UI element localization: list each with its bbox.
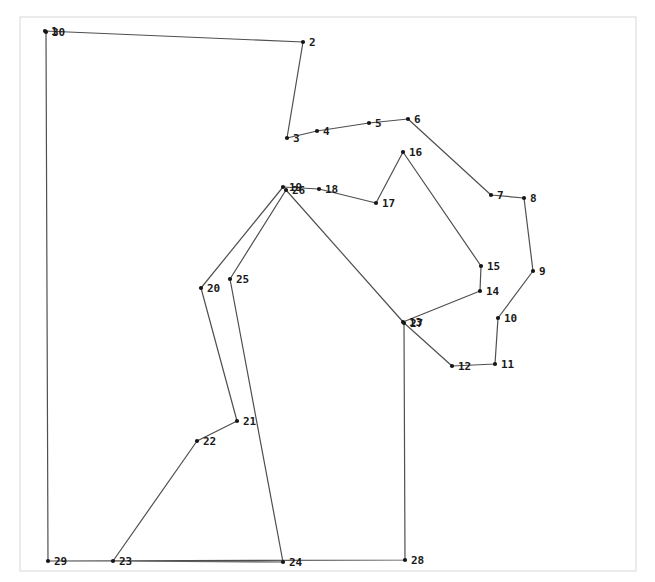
node-label: 9 — [539, 265, 546, 278]
node-marker — [450, 364, 454, 368]
node-label: 20 — [207, 282, 220, 295]
node-label: 8 — [530, 192, 537, 205]
node-marker — [317, 187, 321, 191]
node-marker — [228, 277, 232, 281]
node-label: 18 — [325, 183, 338, 196]
node-marker — [44, 30, 48, 34]
node-label: 25 — [236, 273, 249, 286]
node-marker — [301, 40, 305, 44]
node-label: 27 — [410, 317, 423, 330]
node-label: 12 — [458, 360, 471, 373]
node-label: 7 — [497, 189, 504, 202]
node-label: 15 — [487, 260, 500, 273]
node-marker — [281, 185, 285, 189]
node-label: 26 — [292, 184, 306, 197]
node-label: 30 — [52, 26, 65, 39]
node-marker — [493, 362, 497, 366]
node-label: 5 — [375, 117, 382, 130]
node-marker — [315, 129, 319, 133]
node-label: 29 — [54, 555, 67, 568]
node-marker — [111, 559, 115, 563]
node-marker — [46, 559, 50, 563]
node-label: 10 — [504, 312, 517, 325]
node-label: 23 — [119, 555, 132, 568]
node-label: 24 — [289, 556, 303, 569]
node-marker — [284, 188, 288, 192]
node-label: 4 — [323, 125, 330, 138]
node-marker — [522, 196, 526, 200]
node-marker — [489, 193, 493, 197]
node-marker — [401, 150, 405, 154]
tour-path — [45, 31, 533, 562]
node-marker — [195, 439, 199, 443]
node-marker — [478, 289, 482, 293]
node-label: 14 — [486, 285, 500, 298]
node-marker — [367, 121, 371, 125]
node-label: 3 — [293, 132, 300, 145]
node-marker — [285, 136, 289, 140]
node-marker — [479, 264, 483, 268]
node-label: 17 — [382, 197, 395, 210]
node-label: 11 — [501, 358, 515, 371]
node-marker — [235, 419, 239, 423]
node-marker — [281, 560, 285, 564]
node-marker — [531, 269, 535, 273]
node-marker — [403, 558, 407, 562]
tour-plot-svg: 1234567891011121314151617181920212223242… — [0, 0, 655, 582]
figure-canvas: 1234567891011121314151617181920212223242… — [0, 0, 655, 582]
node-marker — [199, 286, 203, 290]
node-label: 2 — [309, 36, 316, 49]
node-marker — [374, 201, 378, 205]
node-marker — [402, 321, 406, 325]
node-label: 22 — [203, 435, 216, 448]
node-label: 21 — [243, 415, 257, 428]
node-label: 6 — [414, 113, 421, 126]
plot-frame — [20, 17, 636, 571]
node-marker — [496, 316, 500, 320]
node-label: 16 — [409, 146, 423, 159]
node-label: 28 — [411, 554, 424, 567]
node-marker — [406, 117, 410, 121]
